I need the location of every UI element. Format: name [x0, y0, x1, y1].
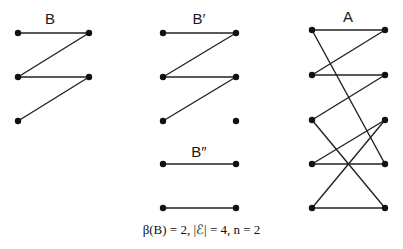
vertex-A [382, 161, 388, 167]
vertex-B-double-prime [160, 161, 166, 167]
vertex-A [382, 27, 388, 33]
vertex-A [382, 117, 388, 123]
vertex-B-double-prime [233, 161, 239, 167]
edge-B [18, 77, 89, 121]
vertex-B [86, 30, 92, 36]
label-B-double-prime: B″ [191, 143, 207, 160]
vertex-B-double-prime [233, 205, 239, 211]
vertex-B-prime [233, 30, 239, 36]
graph-edges [18, 30, 385, 208]
vertex-A [309, 27, 315, 33]
edge-A [312, 30, 385, 75]
vertex-B-prime [160, 30, 166, 36]
label-B: B [45, 10, 55, 27]
vertex-B [15, 30, 21, 36]
vertex-A [382, 72, 388, 78]
vertex-B-double-prime [160, 205, 166, 211]
edge-B-prime [163, 77, 236, 121]
vertex-A [309, 117, 315, 123]
vertex-A [309, 72, 315, 78]
edge-A [312, 75, 385, 120]
vertex-B [15, 74, 21, 80]
vertex-A [309, 205, 315, 211]
edge-A [312, 120, 385, 164]
caption: β(B) = 2, |ℰ| = 4, n = 2 [0, 222, 403, 238]
graph-diagram: BB′B″A [0, 0, 403, 249]
vertex-A [309, 161, 315, 167]
vertex-B [86, 74, 92, 80]
vertex-B [15, 118, 21, 124]
vertex-A [382, 205, 388, 211]
vertex-B-prime [233, 118, 239, 124]
vertex-B-prime [160, 74, 166, 80]
vertex-B-prime [233, 74, 239, 80]
label-B-prime: B′ [193, 10, 206, 27]
edge-B-prime [163, 33, 236, 77]
vertex-B-prime [160, 118, 166, 124]
edge-B [18, 33, 89, 77]
label-A: A [343, 8, 353, 25]
